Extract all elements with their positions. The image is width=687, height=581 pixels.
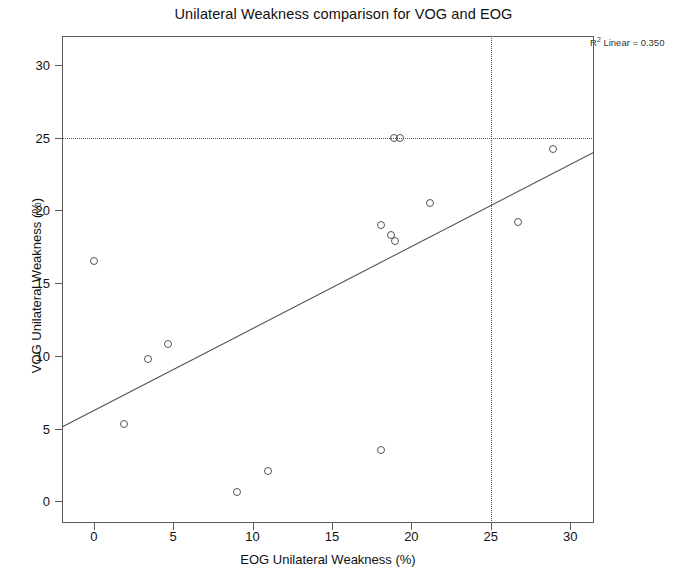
y-axis-tick-mark xyxy=(55,65,62,66)
x-axis-tick-label: 0 xyxy=(74,529,114,544)
data-point-marker xyxy=(396,134,404,142)
y-axis-tick-label: 30 xyxy=(10,58,50,73)
y-axis-tick-mark xyxy=(55,429,62,430)
x-axis-tick-label: 25 xyxy=(471,529,511,544)
y-axis-tick-mark xyxy=(55,283,62,284)
y-axis-tick-label: 10 xyxy=(10,348,50,363)
x-axis-tick-label: 10 xyxy=(233,529,273,544)
y-axis-tick-label: 20 xyxy=(10,203,50,218)
y-axis-tick-label: 15 xyxy=(10,276,50,291)
data-point-marker xyxy=(144,355,152,363)
reference-line-horizontal xyxy=(62,138,594,139)
y-axis-tick-mark xyxy=(55,501,62,502)
x-axis-tick-label: 5 xyxy=(153,529,193,544)
x-axis-tick-label: 20 xyxy=(391,529,431,544)
plot-area-frame xyxy=(62,36,594,523)
chart-title: Unilateral Weakness comparison for VOG a… xyxy=(0,6,687,22)
scatter-plot-figure: Unilateral Weakness comparison for VOG a… xyxy=(0,0,687,581)
y-axis-tick-mark xyxy=(55,210,62,211)
y-axis-tick-label: 5 xyxy=(10,421,50,436)
y-axis-tick-label: 25 xyxy=(10,130,50,145)
x-axis-tick-label: 15 xyxy=(312,529,352,544)
reference-line-vertical xyxy=(491,36,492,523)
y-axis-tick-mark xyxy=(55,138,62,139)
data-point-marker xyxy=(514,218,522,226)
y-axis-tick-mark xyxy=(55,356,62,357)
y-axis-tick-label: 0 xyxy=(10,494,50,509)
r-squared-value: Linear = 0.350 xyxy=(601,37,665,48)
x-axis-tick-label: 30 xyxy=(550,529,590,544)
r-squared-annotation: R2 Linear = 0.350 xyxy=(590,36,664,48)
x-axis-title: EOG Unilateral Weakness (%) xyxy=(62,552,594,567)
